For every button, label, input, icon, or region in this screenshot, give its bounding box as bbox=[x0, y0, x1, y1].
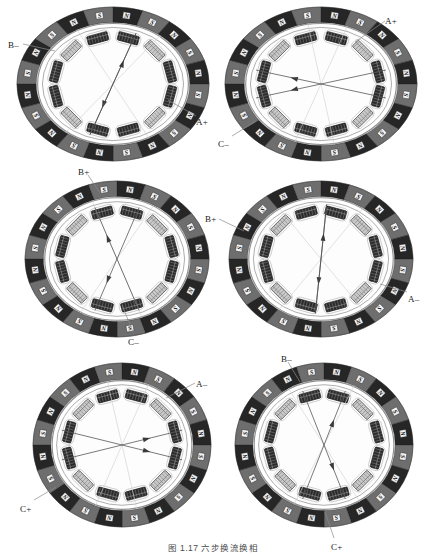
panel-1-label-b-minus: B– bbox=[8, 41, 19, 50]
pole-label-group: N bbox=[31, 266, 39, 274]
pole-label-group: N bbox=[23, 91, 31, 99]
panel-3-label-c-minus: C– bbox=[128, 338, 139, 347]
panel-6-label-c-plus: C+ bbox=[331, 543, 342, 552]
pole-label-group: N bbox=[39, 452, 47, 460]
panel-6-canvas: NSNSNSNSNSNSNSNSNSNS bbox=[232, 360, 416, 530]
pole-label-group: S bbox=[332, 514, 340, 522]
pole-label-group: N bbox=[197, 429, 205, 437]
pole-label-group: S bbox=[303, 11, 311, 19]
pole-label-group: S bbox=[105, 368, 113, 376]
pole-label-group: N bbox=[399, 429, 407, 437]
panel-3-label-b-plus: B+ bbox=[78, 168, 89, 177]
pole-label-group: N bbox=[195, 244, 203, 252]
panel-6-label-b-minus: B– bbox=[281, 355, 292, 364]
panel-1-canvas: NSNSNSNSNSNSNSNSNSNS bbox=[14, 4, 212, 164]
figure-caption: 图 1.17 六步换流换相 bbox=[0, 541, 426, 553]
panel-2: NSNSNSNSNSNSNSNSNSNS bbox=[222, 4, 420, 164]
panel-5-label-c-plus: C+ bbox=[20, 505, 31, 514]
pole-label-group: S bbox=[330, 325, 338, 333]
panel-5-canvas: NSNSNSNSNSNSNSNSNSNS bbox=[30, 360, 214, 530]
pole-label-group: N bbox=[241, 452, 249, 460]
pole-label-group: S bbox=[95, 11, 103, 19]
pole-label-group: S bbox=[330, 149, 338, 157]
panel-5-label-a-minus: A– bbox=[196, 380, 207, 389]
pole-label-group: S bbox=[100, 185, 108, 193]
pole-label-group: N bbox=[231, 91, 239, 99]
pole-label-group: N bbox=[399, 244, 407, 252]
pole-label-group: S bbox=[122, 149, 130, 157]
pole-label-group: S bbox=[130, 514, 138, 522]
panel-1: NSNSNSNSNSNSNSNSNSNS bbox=[14, 4, 212, 164]
panel-2-label-a-plus: A+ bbox=[385, 17, 397, 26]
panel-4: NSNSNSNSNSNSNSNSNSNS bbox=[226, 178, 416, 340]
pole-label-group: S bbox=[304, 185, 312, 193]
panel-1-label-a-plus: A+ bbox=[196, 118, 208, 127]
panel-3-canvas: NSNSNSNSNSNSNSNSNSNS bbox=[22, 178, 212, 340]
pole-label-group: N bbox=[235, 266, 243, 274]
panel-4-label-b-plus: B+ bbox=[205, 215, 216, 224]
panel-2-canvas: NSNSNSNSNSNSNSNSNSNS bbox=[222, 4, 420, 164]
pole-label-group: S bbox=[307, 368, 315, 376]
panel-2-label-c-minus: C– bbox=[218, 140, 229, 149]
panel-6: NSNSNSNSNSNSNSNSNSNS bbox=[232, 360, 416, 530]
figure-six-step-commutation: NSNSNSNSNSNSNSNSNSNSNSNSNSNSNSNSNSNSNSNS… bbox=[0, 0, 426, 556]
panel-3: NSNSNSNSNSNSNSNSNSNS bbox=[22, 178, 212, 340]
pole-label-group: S bbox=[126, 325, 134, 333]
pole-label-group: N bbox=[195, 69, 203, 77]
panel-4-canvas: NSNSNSNSNSNSNSNSNSNS bbox=[226, 178, 416, 340]
pole-label-group: N bbox=[403, 69, 411, 77]
panel-5: NSNSNSNSNSNSNSNSNSNS bbox=[30, 360, 214, 530]
panel-4-label-a-minus: A– bbox=[408, 295, 419, 304]
